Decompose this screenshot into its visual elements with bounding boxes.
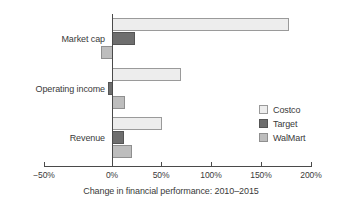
category-label-market-cap: Market cap [61,34,105,44]
legend-label-target: Target [273,119,297,129]
x-tick-mark-neg50 [44,162,45,167]
x-axis-line [44,166,311,167]
bar-revenue-walmart [112,145,132,158]
x-tick-label-100: 100% [191,170,231,180]
x-tick-label-50: 50% [141,170,181,180]
x-tick-mark-100 [211,162,212,167]
category-label-revenue: Revenue [70,133,105,143]
plot-area: Market cap Operating income Revenue −50%… [0,0,342,172]
bar-revenue-target [112,131,124,144]
x-tick-label-0: 0% [92,170,132,180]
x-tick-label-150: 150% [241,170,281,180]
x-tick-mark-0 [112,162,113,167]
x-tick-mark-150 [261,162,262,167]
legend-item-walmart: WalMart [259,131,337,144]
x-tick-label-200: 200% [291,170,331,180]
zero-axis-line [112,14,113,166]
legend-label-walmart: WalMart [273,133,305,143]
bar-market-cap-costco [112,18,289,31]
legend-swatch-icon-target [259,119,268,128]
legend-item-costco: Costco [259,103,337,116]
legend-swatch-icon-costco [259,105,268,114]
bar-market-cap-target [112,32,135,45]
bar-revenue-costco [112,117,162,130]
chart-legend: Costco Target WalMart [259,103,337,145]
bar-operating-income-walmart [112,96,125,109]
x-axis-title: Change in financial performance: 2010–20… [0,186,342,196]
bar-chart: Market cap Operating income Revenue −50%… [0,0,342,207]
category-label-operating-income: Operating income [36,84,105,94]
bar-operating-income-costco [112,68,181,81]
legend-swatch-icon-walmart [259,133,268,142]
x-tick-mark-50 [161,162,162,167]
legend-label-costco: Costco [273,105,300,115]
legend-item-target: Target [259,117,337,130]
x-tick-label-neg50: −50% [24,170,64,180]
x-tick-mark-200 [311,162,312,167]
